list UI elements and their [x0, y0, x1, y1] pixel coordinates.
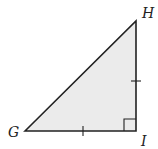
triangle-diagram: G H I	[0, 0, 158, 149]
vertex-label-i: I	[140, 133, 147, 149]
vertex-label-h: H	[141, 5, 155, 21]
vertex-label-g: G	[8, 124, 19, 140]
triangle-ghi	[25, 21, 136, 131]
